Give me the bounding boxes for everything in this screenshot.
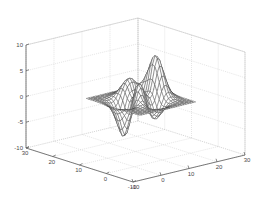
tick-label: 20 — [48, 159, 55, 165]
axis-tick-labels: 1050-5-103020100-10-100102030 — [14, 42, 251, 190]
tick-label: -10 — [131, 184, 140, 190]
tick-label: 10 — [75, 167, 82, 173]
tick-label: 0 — [104, 176, 108, 182]
surface-plot-3d: 1050-5-103020100-10-100102030 — [0, 0, 272, 211]
tick-label: 30 — [22, 150, 29, 156]
tick-label: 5 — [20, 68, 24, 74]
axes-floor-grid — [26, 121, 245, 182]
tick-label: 0 — [161, 177, 165, 183]
tick-label: 20 — [216, 164, 223, 170]
figure-container: 1050-5-103020100-10-100102030 — [0, 0, 272, 211]
tick-label: 0 — [20, 94, 24, 100]
tick-label: 30 — [244, 157, 251, 163]
tick-label: 10 — [188, 171, 195, 177]
tick-label: 10 — [16, 42, 23, 48]
peaks-mesh-surface — [86, 56, 195, 136]
tick-label: -5 — [18, 119, 24, 125]
